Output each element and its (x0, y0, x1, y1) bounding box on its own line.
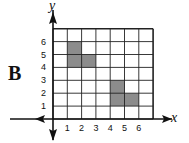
y-tick-label: 6 (41, 37, 46, 47)
y-axis-label: y (49, 0, 55, 14)
axes (10, 10, 172, 141)
x-tick-label: 4 (108, 123, 113, 133)
x-tick-label: 3 (93, 123, 98, 133)
y-tick-label: 5 (41, 50, 46, 60)
y-tick-label: 2 (41, 88, 46, 98)
y-tick-label: 1 (41, 101, 46, 111)
y-tick-label: 3 (41, 75, 46, 85)
x-tick-label: 5 (122, 123, 127, 133)
x-tick-label: 2 (79, 123, 84, 133)
y-tick-label: 4 (41, 62, 46, 72)
x-tick-label: 6 (136, 123, 141, 133)
shapes (67, 42, 139, 107)
x-tick-label: 1 (65, 123, 70, 133)
x-axis-label: x (171, 110, 177, 126)
coordinate-grid: 123456123456 (0, 0, 189, 143)
